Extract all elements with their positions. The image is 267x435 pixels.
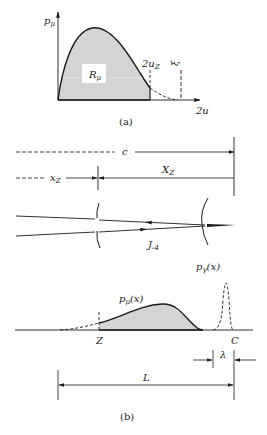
svg-text:pμ: pμ bbox=[44, 15, 55, 28]
cutoff-label: 2u bbox=[141, 58, 155, 69]
c-point-label: C bbox=[231, 335, 239, 346]
r-mu-shaded-area bbox=[58, 28, 150, 100]
figure-b: c xZ XZ J-4 pμ(x) pγ(x) Z C bbox=[15, 137, 256, 422]
diagram-canvas: Rμ pμ 2uZ ξ 2u (a) c xZ XZ bbox=[0, 0, 267, 435]
p-gamma-x-curve bbox=[213, 283, 233, 330]
p-mu-x-tail bbox=[60, 323, 99, 330]
right-mirror-arc bbox=[202, 198, 208, 245]
upper-ray bbox=[99, 220, 205, 225]
lower-ray bbox=[99, 226, 205, 232]
caption-a: (a) bbox=[119, 116, 133, 127]
svg-text:XZ: XZ bbox=[161, 164, 174, 177]
svg-text:J-4: J-4 bbox=[146, 239, 159, 252]
left-mirror-arc bbox=[97, 203, 100, 248]
c-label: c bbox=[122, 146, 128, 157]
lambda-label: λ bbox=[219, 349, 226, 360]
p-mu-shaded-area bbox=[99, 304, 203, 330]
figure-a: Rμ pμ 2uZ ξ 2u (a) bbox=[44, 12, 209, 127]
z-label: Z bbox=[95, 335, 104, 346]
xi-label: ξ bbox=[169, 60, 180, 66]
p-mu-curve-tail bbox=[150, 88, 178, 100]
svg-text:pμ(x): pμ(x) bbox=[119, 293, 144, 306]
beam-tip bbox=[207, 224, 236, 227]
svg-text:2uZ: 2uZ bbox=[141, 58, 160, 71]
svg-text:pγ(x): pγ(x) bbox=[196, 261, 220, 274]
caption-b: (b) bbox=[120, 411, 134, 422]
x-axis-label: 2u bbox=[195, 105, 209, 116]
svg-text:xZ: xZ bbox=[50, 172, 61, 185]
l-label: L bbox=[142, 372, 150, 383]
